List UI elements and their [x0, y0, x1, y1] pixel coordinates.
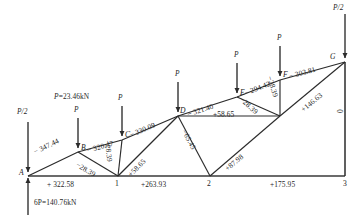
web-members [78, 62, 345, 176]
node-label-1: 1 [115, 179, 119, 188]
point-load-label-B: P [74, 105, 79, 114]
top-chord [28, 62, 345, 176]
member-2-H [210, 116, 280, 176]
node-label-3: 3 [343, 179, 347, 188]
node-label-B: B [81, 143, 86, 152]
point-load-label-F: P [277, 33, 282, 42]
member-C-1 [118, 140, 122, 176]
node-label-2: 2 [207, 179, 211, 188]
node-label-A: A [19, 168, 24, 177]
reaction-magnitude-note: 6P=140.76kN [34, 198, 76, 207]
node-label-D: D [180, 106, 185, 115]
force-label-G-3: 0 [336, 109, 345, 113]
force-label-A-1: + 322.58 [47, 180, 74, 189]
half-load-right-label: P/2 [333, 3, 344, 12]
force-label-D-H: +58.65 [213, 110, 234, 119]
truss-diagram: P=23.46kN 6P=140.76kN P/2 P/2 P P P P P … [0, 0, 364, 221]
force-label-1-2: +263.93 [141, 180, 166, 189]
node-label-G: G [330, 52, 335, 61]
load-magnitude-note: P=23.46kN [54, 92, 89, 101]
point-load-label-C: P [118, 93, 123, 102]
point-load-label-D: P [175, 69, 180, 78]
half-load-left-label: P/2 [17, 107, 28, 116]
point-load-label-E: P [234, 50, 239, 59]
force-label-2-3: +175.95 [270, 180, 295, 189]
